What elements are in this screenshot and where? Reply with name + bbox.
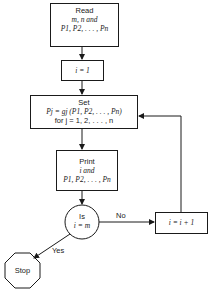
read-box-label: Read m, n and P1, P2, . . . , Pn — [50, 6, 119, 33]
set-formula-label: Pj = gj (P1, P2, . . . , Pn) — [30, 107, 138, 116]
read-params-label: P1, P2, . . . , Pn — [50, 24, 119, 33]
flowchart-lines — [0, 0, 211, 292]
set-range-label: for j = 1, 2, . . . , n — [30, 116, 138, 125]
set-label: Set — [30, 98, 138, 107]
print-label: Print — [56, 157, 118, 166]
decision-label: Is i = m — [65, 212, 99, 230]
read-label: Read — [50, 6, 119, 15]
init-box-label: i = 1 — [61, 66, 104, 75]
print-i-label: i and — [56, 166, 118, 175]
print-params-label: P1, P2, . . . , Pn — [56, 175, 118, 184]
edge-label-yes: Yes — [52, 246, 64, 255]
increment-box-label: i = i + 1 — [155, 218, 208, 227]
print-box-label: Print i and P1, P2, . . . , Pn — [56, 157, 118, 184]
decision-condition-label: i = m — [65, 221, 99, 230]
decision-is-label: Is — [65, 212, 99, 221]
edge-label-no: No — [116, 211, 126, 220]
read-vars-label: m, n and — [50, 15, 119, 24]
stop-label: Stop — [5, 266, 40, 275]
set-box-label: Set Pj = gj (P1, P2, . . . , Pn) for j =… — [30, 98, 138, 125]
